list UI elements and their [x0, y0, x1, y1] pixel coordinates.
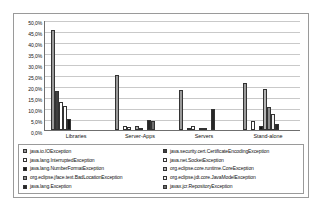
x-tick-label: Libraries [44, 133, 108, 139]
legend-swatch-icon [23, 149, 27, 153]
y-tick-label: 10,0% [28, 109, 42, 114]
legend-label: java.net.SocketException [170, 158, 224, 163]
legend-label: org.eclipse.core.runtime.CoreException [170, 166, 254, 171]
legend-label: java.lang.NumberFormatException [30, 166, 104, 171]
bar-group [179, 21, 233, 130]
y-tick-label: 50,0% [28, 21, 42, 26]
bar [139, 128, 143, 130]
bar [179, 90, 183, 130]
legend-swatch-icon [163, 158, 167, 162]
legend-swatch-icon [23, 185, 27, 189]
legend-item[interactable]: org.eclipse.jdt.core.JavaModelException [161, 173, 301, 182]
legend-label: java.lang.InterruptedException [30, 158, 95, 163]
bar [151, 121, 155, 130]
y-tick-label: 45,0% [28, 32, 42, 37]
y-tick-label: 25,0% [28, 76, 42, 81]
legend-item[interactable]: java.io.IOException [21, 147, 161, 156]
plot-region: 50,0%45,0%40,0%35,0%30,0%25,0%20,0%15,0%… [14, 14, 310, 140]
bar [243, 83, 247, 130]
legend-column-left: java.io.IOExceptionjava.lang.Interrupted… [21, 147, 161, 191]
x-tick-label: Server-Apps [108, 133, 172, 139]
bar [275, 124, 279, 130]
legend-item[interactable]: java.lang.InterruptedException [21, 156, 161, 165]
y-axis: 50,0%45,0%40,0%35,0%30,0%25,0%20,0%15,0%… [16, 19, 42, 133]
legend-label: org.eclipse.jdt.core.JavaModelException [170, 175, 256, 180]
bar [115, 75, 119, 130]
legend-item[interactable]: java.net.SocketException [161, 156, 301, 165]
legend-swatch-icon [23, 167, 27, 171]
bar [191, 126, 195, 130]
plot-area [44, 21, 300, 131]
x-tick-label: Stand-alone [236, 133, 300, 139]
legend-swatch-icon [163, 167, 167, 171]
bars-layer [45, 21, 300, 130]
y-tick-label: 15,0% [28, 98, 42, 103]
legend-item[interactable]: javax.jcr.RepositoryException [161, 182, 301, 191]
y-tick-label: 30,0% [28, 65, 42, 70]
legend-label: org.eclipse.jface.text.BadLocationExcept… [30, 175, 122, 180]
bar-group [243, 21, 297, 130]
legend-item[interactable]: org.eclipse.core.runtime.CoreException [161, 165, 301, 174]
bar-group [115, 21, 169, 130]
legend-label: java.lang.Exception [30, 184, 71, 189]
legend-label: java.security.cert.CertificateEncodingEx… [170, 149, 269, 154]
y-tick-label: 40,0% [28, 43, 42, 48]
legend-swatch-icon [163, 149, 167, 153]
bar-group [51, 21, 105, 130]
x-axis: LibrariesServer-AppsServersStand-alone [44, 133, 300, 143]
legend-item[interactable]: java.security.cert.CertificateEncodingEx… [161, 147, 301, 156]
chart-legend: java.io.IOExceptionjava.lang.Interrupted… [18, 144, 304, 194]
y-tick-label: 0,0% [31, 131, 42, 136]
legend-swatch-icon [23, 176, 27, 180]
legend-label: javax.jcr.RepositoryException [170, 184, 232, 189]
legend-item[interactable]: java.lang.NumberFormatException [21, 165, 161, 174]
legend-swatch-icon [163, 185, 167, 189]
bar [211, 109, 215, 130]
legend-swatch-icon [23, 158, 27, 162]
bar-chart-figure: 50,0%45,0%40,0%35,0%30,0%25,0%20,0%15,0%… [13, 13, 309, 198]
bar [203, 128, 207, 130]
legend-swatch-icon [163, 176, 167, 180]
legend-item[interactable]: java.lang.Exception [21, 182, 161, 191]
bar [67, 119, 71, 130]
y-tick-label: 20,0% [28, 87, 42, 92]
legend-item[interactable]: org.eclipse.jface.text.BadLocationExcept… [21, 173, 161, 182]
x-tick-label: Servers [172, 133, 236, 139]
bar [127, 127, 131, 130]
legend-label: java.io.IOException [30, 149, 71, 154]
y-tick-label: 5,0% [31, 120, 42, 125]
bar [251, 121, 255, 130]
legend-column-right: java.security.cert.CertificateEncodingEx… [161, 147, 301, 191]
y-tick-label: 35,0% [28, 54, 42, 59]
